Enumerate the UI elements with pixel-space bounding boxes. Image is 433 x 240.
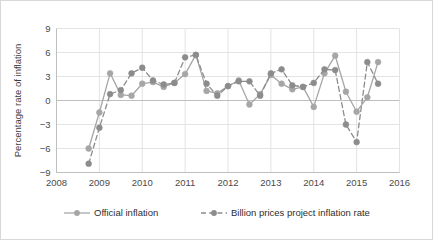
data-point-marker: [182, 54, 188, 60]
data-point-marker: [343, 89, 349, 95]
data-point-marker: [161, 82, 167, 88]
data-point-marker: [236, 78, 242, 84]
data-point-marker: [311, 80, 317, 86]
x-tick-label: 2010: [132, 177, 153, 188]
data-point-marker: [139, 65, 145, 71]
data-point-marker: [118, 87, 124, 93]
inflation-line-chart: 200820092010201120122013201420152016 963…: [1, 1, 433, 240]
data-point-marker: [96, 110, 102, 116]
y-axis-label-text: Percentage rate of inflation: [12, 44, 23, 158]
data-point-marker: [257, 93, 263, 99]
x-tick-label: 2012: [217, 177, 238, 188]
data-point-marker: [86, 146, 92, 152]
data-point-marker: [364, 94, 370, 100]
data-point-marker: [86, 161, 92, 167]
data-point-marker: [364, 59, 370, 65]
series-official-inflation: [86, 52, 381, 151]
data-point-marker: [129, 70, 135, 76]
data-point-marker: [96, 125, 102, 131]
x-tick-label: 2014: [303, 177, 324, 188]
data-point-marker: [204, 88, 210, 94]
data-point-marker: [289, 82, 295, 88]
data-point-marker: [332, 53, 338, 59]
y-axis-title: Percentage rate of inflation: [12, 44, 23, 158]
chart-series-layer: [86, 52, 381, 167]
x-axis-tick-labels: 200820092010201120122013201420152016: [46, 177, 410, 188]
data-point-marker: [279, 66, 285, 72]
data-point-marker: [343, 122, 349, 128]
x-tick-label: 2013: [260, 177, 281, 188]
legend-marker-icon: [211, 210, 217, 216]
y-tick-label: −9: [40, 167, 51, 178]
data-point-marker: [129, 93, 135, 99]
y-tick-label: 0: [45, 95, 50, 106]
data-point-marker: [172, 80, 178, 86]
series-bpp-inflation-rate: [86, 52, 381, 167]
data-point-marker: [300, 84, 306, 90]
data-point-marker: [279, 81, 285, 87]
data-point-marker: [322, 66, 328, 72]
legend-label: Official inflation: [94, 207, 158, 218]
y-tick-label: −6: [40, 143, 51, 154]
data-point-marker: [204, 81, 210, 87]
data-point-marker: [332, 67, 338, 73]
y-tick-label: −3: [40, 119, 51, 130]
y-axis-tick-labels: 9630−3−6−9: [40, 23, 51, 178]
data-point-marker: [107, 91, 113, 97]
legend-marker-icon: [74, 210, 80, 216]
x-tick-label: 2016: [389, 177, 410, 188]
data-point-marker: [247, 102, 253, 108]
data-point-marker: [311, 104, 317, 110]
legend-item-official-inflation[interactable]: Official inflation: [64, 207, 158, 218]
data-point-marker: [354, 109, 360, 115]
y-tick-label: 9: [45, 23, 50, 34]
y-tick-label: 6: [45, 47, 50, 58]
data-point-marker: [225, 83, 231, 89]
chart-figure: 200820092010201120122013201420152016 963…: [0, 0, 433, 240]
data-point-marker: [150, 78, 156, 84]
data-point-marker: [268, 70, 274, 76]
x-tick-label: 2009: [89, 177, 110, 188]
data-point-marker: [182, 71, 188, 77]
x-tick-label: 2011: [175, 177, 195, 188]
chart-legend: Official inflationBillion prices project…: [64, 207, 370, 218]
x-tick-label: 2015: [346, 177, 367, 188]
data-point-marker: [375, 81, 381, 87]
data-point-marker: [375, 59, 381, 65]
data-point-marker: [214, 93, 220, 99]
legend-label: Billion prices project inflation rate: [231, 207, 370, 218]
data-point-marker: [139, 81, 145, 87]
y-tick-label: 3: [45, 71, 50, 82]
data-point-marker: [107, 70, 113, 76]
data-point-marker: [247, 78, 253, 84]
data-point-marker: [193, 52, 199, 58]
x-tick-label: 2008: [46, 177, 67, 188]
data-point-marker: [354, 139, 360, 145]
legend-item-bpp-inflation-rate[interactable]: Billion prices project inflation rate: [201, 207, 370, 218]
